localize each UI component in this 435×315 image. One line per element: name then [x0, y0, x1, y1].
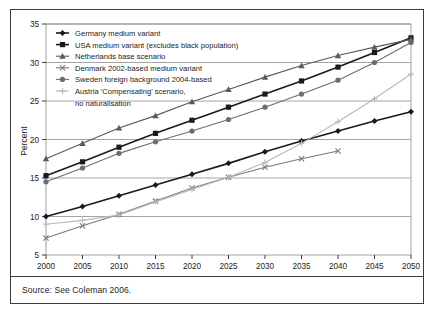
data-point-diamond	[262, 149, 268, 155]
data-point-diamond	[335, 128, 341, 134]
x-tick-label: 2045	[365, 262, 384, 271]
legend-label: USA medium variant (excludes black popul…	[75, 41, 239, 50]
data-point-circle	[116, 151, 121, 156]
line-chart: 5101520253035200020052010201520202025203…	[0, 0, 435, 315]
legend-label: Denmark 2002-based medium variant	[75, 64, 203, 73]
data-point-square	[189, 118, 194, 123]
data-point-circle	[226, 117, 231, 122]
x-tick-label: 2005	[73, 262, 92, 271]
legend-label: Sweden foreign background 2004-based	[75, 75, 212, 84]
data-point-square	[226, 105, 231, 110]
x-tick-label: 2015	[146, 262, 165, 271]
data-point-diamond	[372, 118, 378, 124]
data-point-circle	[60, 77, 65, 82]
data-point-diamond	[153, 182, 159, 188]
data-point-triangle	[79, 140, 85, 146]
data-point-square	[153, 131, 158, 136]
y-tick-label: 30	[30, 59, 40, 68]
data-point-square	[299, 78, 304, 83]
figure-container: Percent 51015202530352000200520102015202…	[0, 0, 435, 315]
data-point-plus	[80, 217, 86, 223]
y-tick-label: 5	[34, 251, 39, 260]
series-0	[43, 109, 414, 220]
y-tick-label: 10	[30, 213, 40, 222]
data-point-square	[262, 91, 267, 96]
data-point-circle	[372, 60, 377, 65]
data-point-square	[116, 145, 121, 150]
data-point-circle	[189, 128, 194, 133]
data-point-square	[43, 173, 48, 178]
data-point-circle	[153, 139, 158, 144]
data-point-diamond	[80, 203, 86, 209]
data-point-triangle	[43, 156, 49, 162]
data-point-diamond	[43, 214, 49, 220]
data-point-circle	[299, 91, 304, 96]
x-tick-label: 2025	[219, 262, 238, 271]
legend-label: Austria 'Compensating' scenario,	[75, 87, 186, 96]
data-point-circle	[43, 179, 48, 184]
data-point-circle	[80, 165, 85, 170]
y-tick-label: 35	[30, 20, 40, 29]
legend-label-wrap: no naturalisation	[75, 99, 131, 108]
x-tick-label: 2010	[110, 262, 129, 271]
x-tick-label: 2050	[402, 262, 421, 271]
series-3	[43, 148, 340, 240]
source-note: Source: See Coleman 2006.	[22, 285, 131, 295]
data-point-plus	[408, 71, 414, 77]
data-point-circle	[408, 40, 413, 45]
x-tick-label: 2035	[292, 262, 311, 271]
y-tick-label: 15	[30, 174, 40, 183]
y-tick-label: 20	[30, 136, 40, 145]
x-tick-label: 2030	[256, 262, 275, 271]
x-tick-label: 2020	[183, 262, 202, 271]
x-tick-label: 2040	[329, 262, 348, 271]
data-point-square	[335, 65, 340, 70]
data-point-plus	[43, 221, 49, 227]
data-point-diamond	[116, 193, 122, 199]
legend-label: Netherlands base scenario	[75, 52, 165, 61]
y-tick-label: 25	[30, 97, 40, 106]
data-point-circle	[335, 78, 340, 83]
data-point-plus	[60, 88, 66, 94]
data-point-diamond	[60, 30, 66, 36]
data-point-square	[60, 42, 65, 47]
data-point-diamond	[408, 109, 414, 115]
series-line	[46, 151, 338, 238]
data-point-plus	[335, 119, 341, 125]
data-point-diamond	[189, 171, 195, 177]
data-point-square	[80, 159, 85, 164]
legend-label: Germany medium variant	[75, 29, 161, 38]
data-point-square	[372, 50, 377, 55]
x-tick-label: 2000	[37, 262, 56, 271]
data-point-circle	[262, 105, 267, 110]
data-point-diamond	[226, 160, 232, 166]
